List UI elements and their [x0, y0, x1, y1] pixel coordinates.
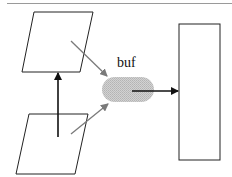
top-source-parallelogram — [22, 12, 93, 72]
buffer-pill — [102, 77, 154, 102]
buffer-label: buf — [117, 55, 136, 70]
diagram-canvas: buf — [0, 0, 232, 177]
sink-rectangle — [179, 24, 220, 160]
bottom-source-parallelogram — [16, 114, 88, 174]
